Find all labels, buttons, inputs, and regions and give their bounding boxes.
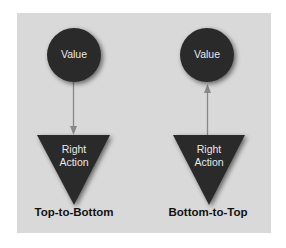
right-action-line2: Action [47,156,101,169]
right-action-line1: Right [182,143,236,156]
arrowhead-down-icon [70,126,77,135]
value-text-right: Value [180,48,234,61]
caption-top-to-bottom: Top-to-Bottom [19,206,129,218]
arrowhead-up-icon [204,84,211,93]
right-action-line1: Right [47,143,101,156]
caption-bottom-to-top: Bottom-to-Top [153,206,263,218]
value-text-left: Value [47,48,101,61]
right-action-text-left: Right Action [47,143,101,169]
right-action-text-right: Right Action [182,143,236,169]
right-action-line2: Action [182,156,236,169]
